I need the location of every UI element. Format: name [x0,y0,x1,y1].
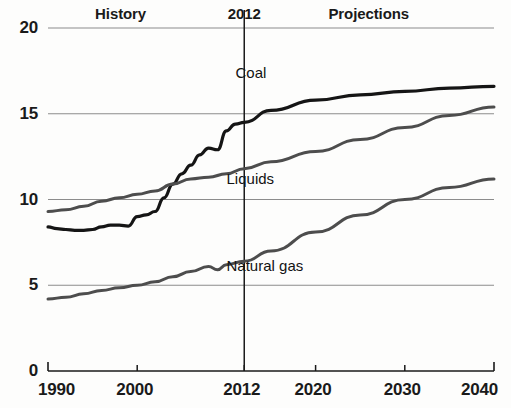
year-divider-label: 2012 [228,6,261,21]
series-label-liquids: Liquids [227,171,275,186]
y-tick-label-5: 5 [4,276,38,293]
x-tick-label-2012: 2012 [223,381,260,398]
history-label: History [95,6,146,21]
y-tick-label-20: 20 [4,19,38,36]
series-line-coal [48,86,494,230]
chart-plot-area [0,0,511,408]
x-tick-label-2000: 2000 [116,381,153,398]
y-tick-label-10: 10 [4,191,38,208]
y-tick-label-0: 0 [4,362,38,379]
series-line-liquids [48,107,494,212]
x-tick-label-2040: 2040 [461,381,498,398]
x-tick-label-2030: 2030 [384,381,421,398]
projections-label: Projections [328,6,409,21]
x-tick-label-1990: 1990 [38,381,75,398]
x-tick-label-2020: 2020 [295,381,332,398]
series-label-natural-gas: Natural gas [227,258,304,273]
energy-consumption-line-chart: 05101520 199020002012202020302040 Histor… [0,0,511,408]
y-tick-label-15: 15 [4,105,38,122]
series-label-coal: Coal [235,65,266,80]
